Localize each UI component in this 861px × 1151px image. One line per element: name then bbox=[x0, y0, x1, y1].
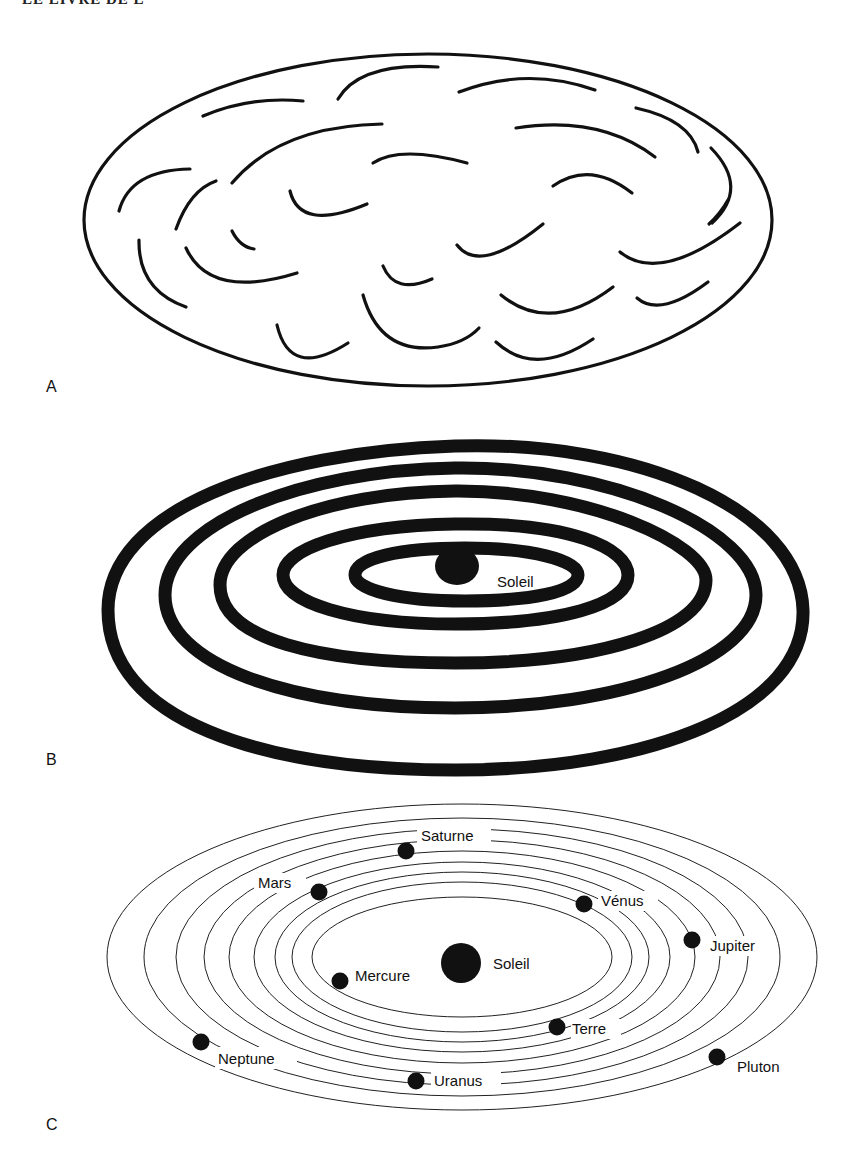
sun-b bbox=[435, 547, 479, 585]
label-neptune: Neptune bbox=[218, 1050, 275, 1067]
label-mercure: Mercure bbox=[355, 967, 410, 984]
label-pluton: Pluton bbox=[737, 1058, 780, 1075]
panel-label-a: A bbox=[46, 378, 57, 395]
planet-saturne bbox=[398, 843, 415, 860]
planet-pluton bbox=[709, 1049, 726, 1066]
planet-venus bbox=[576, 896, 593, 913]
planet-mars bbox=[311, 884, 328, 901]
solar-system-formation-figure: A Soleil B Soleil bbox=[0, 0, 861, 1151]
nebula-outline bbox=[84, 54, 772, 386]
nebula-swirls bbox=[119, 66, 740, 359]
sun-label-b: Soleil bbox=[497, 573, 534, 590]
label-mars: Mars bbox=[258, 874, 291, 891]
panel-b-rings bbox=[108, 446, 803, 770]
label-terre: Terre bbox=[572, 1020, 606, 1037]
panel-label-c: C bbox=[46, 1116, 58, 1133]
label-venus: Vénus bbox=[601, 892, 644, 909]
ring-4 bbox=[165, 468, 756, 708]
panel-a-nebula bbox=[84, 54, 772, 386]
planet-uranus bbox=[408, 1073, 425, 1090]
planet-neptune bbox=[193, 1034, 210, 1051]
sun-label-c: Soleil bbox=[493, 955, 530, 972]
label-jupiter: Jupiter bbox=[710, 937, 755, 954]
panel-label-b: B bbox=[46, 751, 57, 768]
label-uranus: Uranus bbox=[434, 1072, 482, 1089]
sun-c bbox=[441, 943, 481, 983]
planet-terre bbox=[549, 1019, 566, 1036]
planet-jupiter bbox=[684, 932, 701, 949]
label-saturne: Saturne bbox=[421, 827, 474, 844]
planet-mercure bbox=[332, 973, 349, 990]
